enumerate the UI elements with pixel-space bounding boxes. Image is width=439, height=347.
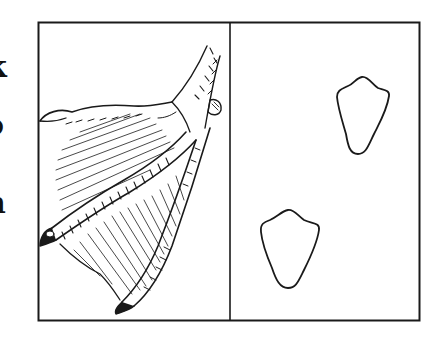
footprint-upper (337, 77, 389, 154)
footprint-lower (261, 210, 319, 288)
duck-foot-drawing (40, 46, 221, 314)
outer-frame (39, 23, 420, 321)
illustration-canvas (0, 0, 439, 347)
figure: k o n : (0, 0, 439, 347)
